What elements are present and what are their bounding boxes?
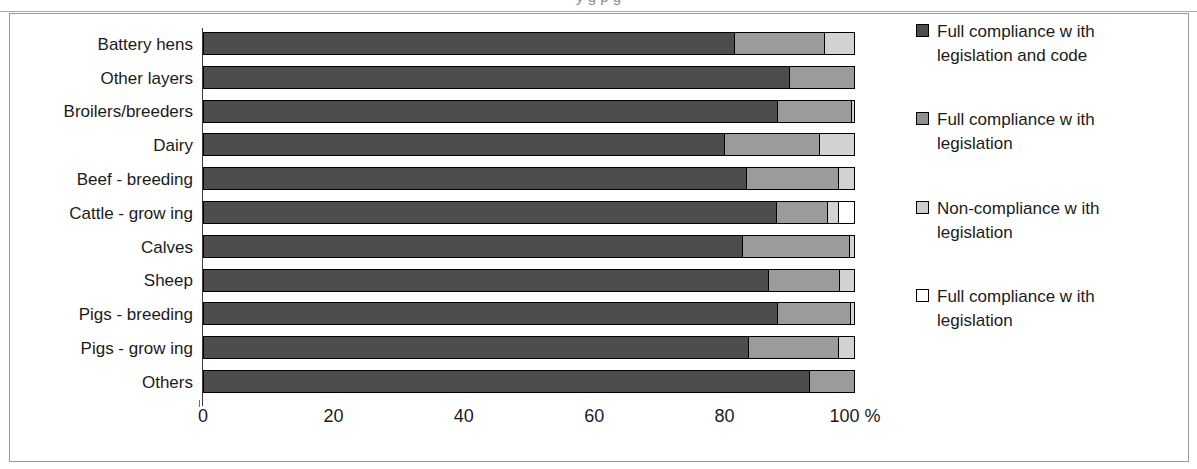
bar-segment xyxy=(827,202,839,223)
category-label: Others xyxy=(142,373,193,393)
x-tick-label: 60 xyxy=(584,406,604,427)
stacked-bar xyxy=(203,100,855,123)
bar-row: Beef - breeding xyxy=(203,163,855,197)
x-axis-line xyxy=(203,400,855,401)
bar-segment xyxy=(789,67,854,88)
category-label: Sheep xyxy=(144,271,193,291)
stacked-bar xyxy=(203,32,855,55)
bar-segment xyxy=(204,270,768,291)
stacked-bar xyxy=(203,302,855,325)
legend-item-non-compliance-legislation[interactable]: Non-compliance w ith legislation xyxy=(916,197,1166,245)
category-label: Dairy xyxy=(153,136,193,156)
legend-label: Non-compliance w ith legislation xyxy=(937,197,1152,245)
bar-row: Battery hens xyxy=(203,28,855,62)
legend-swatch-icon xyxy=(916,201,929,214)
legend: Full compliance w ith legislation and co… xyxy=(916,20,1166,373)
bar-row: Others xyxy=(203,366,855,400)
x-tick-label: 80 xyxy=(715,406,735,427)
stacked-bar xyxy=(203,133,855,156)
bar-segment xyxy=(768,270,840,291)
bar-segment xyxy=(746,168,838,189)
bar-segment xyxy=(849,236,854,257)
legend-label: Full compliance w ith legislation xyxy=(937,108,1152,156)
plot-area: Battery hensOther layersBroilers/breeder… xyxy=(203,28,855,400)
category-label: Pigs - breeding xyxy=(79,305,193,325)
bar-segment xyxy=(824,33,854,54)
cropped-title: y g p g xyxy=(0,0,1197,11)
bar-segment xyxy=(809,371,854,392)
bar-segment xyxy=(204,134,724,155)
bar-segment xyxy=(204,67,789,88)
stacked-bar xyxy=(203,167,855,190)
category-label: Beef - breeding xyxy=(77,170,193,190)
legend-item-full-compliance-legislation[interactable]: Full compliance w ith legislation xyxy=(916,108,1166,156)
bar-segment xyxy=(204,303,777,324)
category-label: Broilers/breeders xyxy=(64,102,193,122)
bar-row: Pigs - grow ing xyxy=(203,332,855,366)
bar-segment xyxy=(777,101,850,122)
bar-segment xyxy=(742,236,850,257)
bar-segment xyxy=(850,303,854,324)
category-label: Calves xyxy=(141,238,193,258)
x-tick-label: 0 xyxy=(198,406,208,427)
legend-item-full-compliance-legislation-and-code[interactable]: Full compliance w ith legislation and co… xyxy=(916,20,1166,68)
bar-segment xyxy=(734,33,824,54)
bar-row: Cattle - grow ing xyxy=(203,197,855,231)
x-tick-label: 20 xyxy=(323,406,343,427)
x-axis-tick-labels: 020406080100 % xyxy=(203,406,855,436)
legend-swatch-icon xyxy=(916,289,929,302)
bar-segment xyxy=(204,101,777,122)
bar-row: Sheep xyxy=(203,265,855,299)
bar-segment xyxy=(204,33,734,54)
legend-item-full-compliance-legislation-white[interactable]: Full compliance w ith legislation xyxy=(916,285,1166,333)
bar-segment xyxy=(748,337,838,358)
stacked-bar xyxy=(203,235,855,258)
x-tick-label: 100 % xyxy=(829,406,880,427)
category-label: Other layers xyxy=(100,69,193,89)
title-divider xyxy=(0,11,1197,12)
bar-segment xyxy=(724,134,819,155)
bar-segment xyxy=(819,134,854,155)
bar-row: Calves xyxy=(203,231,855,265)
x-tick-label: 40 xyxy=(454,406,474,427)
bar-segment xyxy=(204,202,776,223)
bar-segment xyxy=(204,371,809,392)
bar-row: Dairy xyxy=(203,129,855,163)
bar-segment xyxy=(777,303,850,324)
bar-segment xyxy=(851,101,854,122)
bar-segment xyxy=(776,202,827,223)
stacked-bar xyxy=(203,269,855,292)
category-label: Cattle - grow ing xyxy=(69,204,193,224)
stacked-bar xyxy=(203,336,855,359)
bar-segment xyxy=(838,168,854,189)
category-label: Battery hens xyxy=(98,35,193,55)
stacked-bar xyxy=(203,370,855,393)
stacked-bar xyxy=(203,66,855,89)
legend-label: Full compliance w ith legislation xyxy=(937,285,1152,333)
chart-screenshot: y g p g Battery hensOther layersBroilers… xyxy=(0,0,1197,469)
bar-segment xyxy=(204,168,746,189)
bar-segment xyxy=(204,337,748,358)
bar-segment xyxy=(204,236,742,257)
bar-segment xyxy=(838,337,854,358)
legend-swatch-icon xyxy=(916,112,929,125)
bar-rows: Battery hensOther layersBroilers/breeder… xyxy=(203,28,855,400)
legend-swatch-icon xyxy=(916,24,929,37)
bar-row: Broilers/breeders xyxy=(203,96,855,130)
bar-segment xyxy=(838,202,854,223)
bar-row: Pigs - breeding xyxy=(203,298,855,332)
stacked-bar xyxy=(203,201,855,224)
bar-row: Other layers xyxy=(203,62,855,96)
category-label: Pigs - grow ing xyxy=(81,339,193,359)
bar-segment xyxy=(839,270,854,291)
legend-label: Full compliance w ith legislation and co… xyxy=(937,20,1152,68)
